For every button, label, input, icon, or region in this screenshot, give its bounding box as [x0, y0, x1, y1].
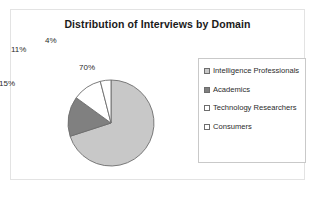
chart-title: Distribution of Interviews by Domain	[11, 18, 304, 30]
slice-label-technology-researchers: 11%	[11, 45, 26, 54]
legend-item[interactable]: Intelligence Professionals	[204, 66, 301, 76]
legend-item-label: Academics	[213, 85, 250, 95]
legend-item-label: Consumers	[213, 122, 252, 132]
legend-item-label: Technology Researchers	[213, 103, 297, 113]
legend-item-label: Intelligence Professionals	[213, 66, 299, 76]
slice-label-intelligence-professionals: 70%	[79, 63, 95, 72]
legend-swatch-icon	[204, 87, 210, 93]
legend-item[interactable]: Consumers	[204, 122, 301, 132]
legend-swatch-icon	[204, 68, 210, 74]
slice-label-consumers: 4%	[45, 36, 57, 45]
slice-label-academics: 15%	[0, 79, 15, 88]
legend-item[interactable]: Technology Researchers	[204, 103, 301, 113]
pie-chart-plot-area: 70% 15% 11% 4%	[11, 36, 201, 181]
chart-legend: Intelligence ProfessionalsAcademicsTechn…	[198, 58, 306, 163]
pie-slices-group	[68, 80, 154, 166]
pie-chart-svg	[11, 36, 201, 181]
legend-swatch-icon	[204, 105, 210, 111]
chart-frame: Distribution of Interviews by Domain 70%…	[10, 9, 305, 180]
legend-item[interactable]: Academics	[204, 85, 301, 95]
legend-swatch-icon	[204, 124, 210, 130]
